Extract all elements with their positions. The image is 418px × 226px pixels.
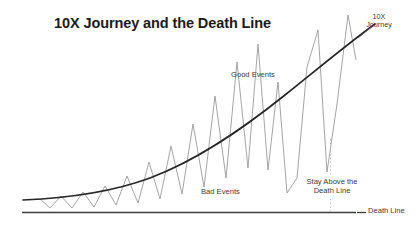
annotation-bad-events: Bad Events bbox=[201, 188, 240, 197]
chart-canvas: 10X Journey and the Death Line Good Even… bbox=[0, 0, 418, 226]
annotation-good-events: Good Events bbox=[231, 71, 275, 80]
annotation-10x-journey: 10XJourney bbox=[362, 13, 396, 30]
stay-above-line-1: Stay Above the bbox=[306, 177, 357, 186]
journey-line-2: Journey bbox=[366, 20, 392, 29]
annotation-stay-above-death-line: Stay Above theDeath Line bbox=[303, 178, 361, 196]
trend-curve-10x-journey bbox=[23, 24, 375, 200]
annotation-death-line: Death Line bbox=[368, 207, 405, 216]
stay-above-line-2: Death Line bbox=[314, 186, 351, 195]
page-title: 10X Journey and the Death Line bbox=[54, 15, 271, 32]
